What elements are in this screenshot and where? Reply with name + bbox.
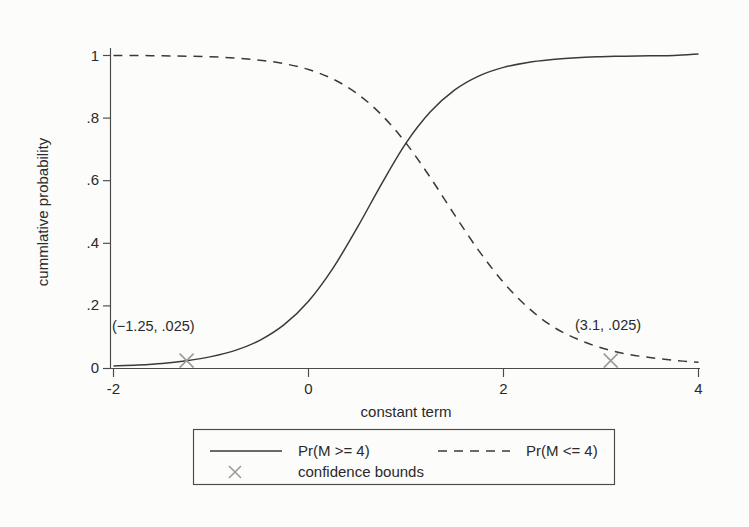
chart-canvas: cummlative probability 0 .2 .4 .6 .8 1: [0, 0, 749, 527]
y-tick-label: .2: [86, 296, 99, 313]
x-axis-title: constant term: [361, 403, 452, 420]
y-tick-label: .4: [86, 234, 99, 251]
y-tick-label: .8: [86, 109, 99, 126]
x-axis-tick-labels: -2 0 2 4: [107, 380, 703, 397]
legend: Pr(M >= 4) Pr(M <= 4) confidence bounds: [194, 430, 615, 485]
y-tick-label: 1: [91, 47, 99, 64]
marker-upper-confidence-bound: [604, 354, 618, 368]
y-axis: [103, 48, 111, 369]
y-tick-label: 0: [91, 359, 99, 376]
legend-label-confidence-bounds: confidence bounds: [298, 463, 424, 480]
legend-label-pr-m-ge-4: Pr(M >= 4): [298, 442, 370, 459]
x-axis: [111, 369, 701, 378]
annotation-upper-bound: (3.1, .025): [575, 317, 641, 333]
y-tick-label: .6: [86, 171, 99, 188]
legend-label-pr-m-le-4: Pr(M <= 4): [526, 442, 598, 459]
x-tick-label: -2: [107, 380, 120, 397]
x-tick-label: 4: [694, 380, 702, 397]
confidence-bound-markers: [180, 354, 618, 368]
y-axis-tick-labels: 0 .2 .4 .6 .8 1: [86, 47, 99, 376]
annotation-lower-bound: (−1.25, .025): [112, 318, 195, 334]
x-tick-label: 2: [499, 380, 507, 397]
legend-swatch-x-marker: [229, 466, 241, 478]
x-tick-label: 0: [304, 380, 312, 397]
chart-figure: cummlative probability 0 .2 .4 .6 .8 1: [0, 0, 749, 527]
y-axis-title: cummlative probability: [34, 137, 51, 286]
